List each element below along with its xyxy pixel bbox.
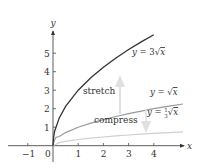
y-tick-label: 5 (44, 49, 50, 59)
stretch-label: stretch (83, 86, 116, 96)
label-third-sqrt: y = 13√x (146, 107, 178, 119)
x-ticks (28, 143, 154, 146)
y-tick-label: 2 (44, 104, 50, 114)
x-tick-label: 3 (126, 149, 132, 159)
label-3sqrt: y = 3√x (131, 47, 165, 57)
x-axis-label: x (187, 141, 192, 151)
label-sqrt: y = √x (149, 87, 178, 97)
x-tick-label: 0 (45, 149, 51, 159)
x-tick-label: 1 (76, 149, 82, 159)
y-tick-label: 3 (44, 86, 50, 96)
x-tick-label: 4 (151, 149, 157, 159)
x-tick-label: 2 (101, 149, 107, 159)
compress-label: compress (94, 115, 138, 125)
y-tick-label: 4 (44, 67, 50, 77)
sqrt-transform-chart: x y −1 0 1 2 3 4 1 2 3 4 5 stretch compr… (0, 0, 197, 168)
y-ticks (53, 53, 56, 127)
x-tick-label: −1 (22, 149, 35, 159)
curve-third-sqrt (53, 132, 183, 146)
y-axis-label: y (50, 18, 57, 28)
y-tick-label: 1 (44, 123, 50, 133)
